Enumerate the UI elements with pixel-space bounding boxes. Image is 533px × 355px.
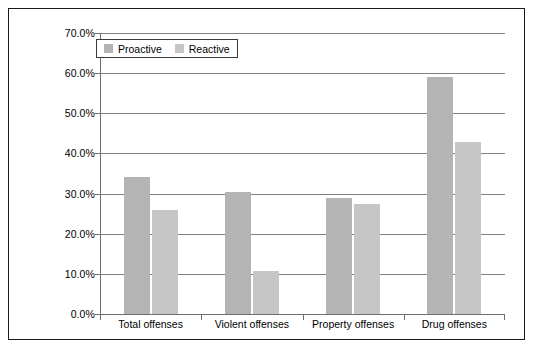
legend-swatch-reactive-icon [175, 44, 184, 53]
legend-label: Proactive [118, 43, 162, 55]
y-axis-tick-label: 60.0% [35, 67, 95, 79]
bar-proactive-property-offenses [326, 198, 352, 314]
y-axis-tick-mark [95, 274, 100, 275]
y-axis-tick-mark [95, 33, 100, 34]
x-axis-category-label: Drug offenses [422, 318, 487, 330]
y-axis-tick-label: 40.0% [35, 147, 95, 159]
bar-reactive-property-offenses [354, 204, 380, 314]
y-axis-tick-label: 20.0% [35, 228, 95, 240]
x-axis-category-label: Total offenses [118, 318, 183, 330]
y-axis-tick-label: 30.0% [35, 188, 95, 200]
bar-reactive-drug-offenses [455, 142, 481, 314]
gridline [100, 33, 505, 34]
x-axis-labels: Total offensesViolent offensesProperty o… [100, 318, 505, 338]
y-axis-tick-label: 10.0% [35, 268, 95, 280]
y-axis-tick-label: 0.0% [35, 308, 95, 320]
x-axis-category-label: Property offenses [312, 318, 394, 330]
y-axis-tick-label: 50.0% [35, 107, 95, 119]
bar-proactive-drug-offenses [427, 77, 453, 314]
y-axis-tick-mark [95, 314, 100, 315]
y-axis-tick-mark [95, 194, 100, 195]
chart-figure: 0.0%10.0%20.0%30.0%40.0%50.0%60.0%70.0% … [0, 0, 533, 355]
legend-entry-reactive: Reactive [175, 43, 230, 55]
bar-reactive-violent-offenses [253, 271, 279, 314]
bar-proactive-violent-offenses [225, 192, 251, 314]
plot-area [100, 33, 505, 314]
y-axis-tick-mark [95, 234, 100, 235]
bar-proactive-total-offenses [124, 177, 150, 314]
legend-swatch-proactive-icon [104, 44, 113, 53]
legend-label: Reactive [189, 43, 230, 55]
bar-reactive-total-offenses [152, 210, 178, 314]
y-axis-tick-label: 70.0% [35, 27, 95, 39]
legend-entry-proactive: Proactive [104, 43, 162, 55]
y-axis-tick-mark [95, 113, 100, 114]
y-axis-labels: 0.0%10.0%20.0%30.0%40.0%50.0%60.0%70.0% [33, 33, 95, 314]
chart-legend: ProactiveReactive [96, 39, 238, 58]
y-axis-tick-mark [95, 153, 100, 154]
x-axis-category-label: Violent offenses [215, 318, 289, 330]
gridline [100, 73, 505, 74]
y-axis-tick-mark [95, 73, 100, 74]
